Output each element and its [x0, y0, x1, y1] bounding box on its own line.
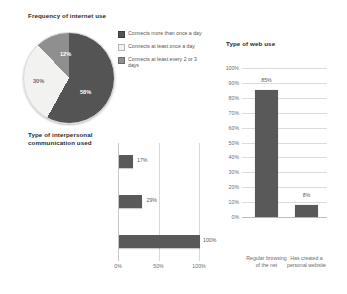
hbar-plot-area: 17% Uses chat rooms regularly 29% Uses s… — [118, 143, 199, 261]
hbar-x-axis: 0% 50% 100% — [118, 263, 199, 273]
legend-item: Connects at least once a day — [118, 43, 206, 51]
bar-category-label: Has created a personal website — [284, 255, 330, 269]
axis-tick-label: 30% — [229, 169, 239, 175]
axis-tick-label: 80% — [229, 95, 239, 101]
bar — [255, 90, 278, 217]
legend-item: Connects more than once a day — [118, 30, 206, 38]
legend-item: Connects at least every 2 or 3 days — [118, 56, 206, 69]
legend-swatch-icon — [118, 57, 125, 64]
gridline — [242, 83, 327, 84]
legend-label: Connects at least once a day — [128, 43, 195, 49]
vbar-chart-title: Type of web use — [226, 40, 275, 48]
axis-tick-label: 90% — [229, 80, 239, 86]
legend-swatch-icon — [118, 44, 125, 51]
pie-value-label: 30% — [33, 78, 44, 84]
bar-value-label: 17% — [137, 157, 147, 163]
axis-tick-label: 60% — [229, 125, 239, 131]
axis-tick-label: 50% — [229, 140, 239, 146]
axis-tick-label: 100% — [192, 263, 205, 269]
hbar-chart-title: Type of interpersonal communication used — [28, 131, 123, 147]
bar-value-label: 29% — [147, 197, 157, 203]
pie-legend: Connects more than once a day Connects a… — [118, 30, 206, 74]
axis-tick-label: 0% — [114, 263, 122, 269]
axis-tick-label: 40% — [229, 154, 239, 160]
axis-tick-label: 20% — [229, 184, 239, 190]
axis-tick-label: 100% — [226, 65, 239, 71]
interpersonal-communication-chart: Type of interpersonal communication used… — [0, 130, 215, 294]
bar — [119, 195, 142, 208]
pie-graphic: 58% 30% 12% — [23, 32, 115, 124]
pie-value-label: 12% — [60, 51, 71, 57]
axis-tick-label: 50% — [153, 263, 163, 269]
gridline — [242, 68, 327, 69]
bar — [119, 155, 133, 168]
axis-tick-label: 10% — [229, 199, 239, 205]
axis-tick-label: 70% — [229, 110, 239, 116]
legend-swatch-icon — [118, 31, 125, 38]
type-of-web-use-chart: Type of web use 0% 10% 20% 30% 40% 50% 6… — [212, 35, 347, 275]
frequency-of-internet-use-chart: Frequency of internet use 58% 30% 12% Co… — [0, 0, 210, 130]
bar-value-label: 8% — [303, 192, 311, 198]
legend-label: Connects at least every 2 or 3 days — [128, 56, 206, 69]
axis-tick-label: 0% — [232, 214, 240, 220]
bar — [295, 205, 318, 217]
legend-label: Connects more than once a day — [128, 30, 202, 36]
pie-chart-title: Frequency of internet use — [28, 12, 106, 20]
bar — [119, 235, 200, 248]
pie-value-label: 58% — [80, 89, 91, 95]
bar-value-label: 85% — [261, 77, 271, 83]
vbar-plot-area: 0% 10% 20% 30% 40% 50% 60% 70% 80% 90% 1… — [242, 68, 327, 218]
